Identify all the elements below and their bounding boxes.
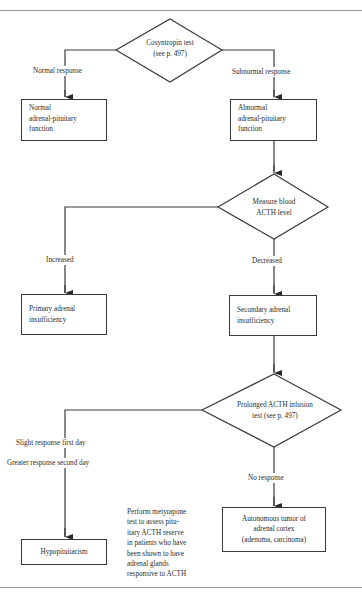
- note-line: adrenal glands: [127, 559, 217, 569]
- metyrapone-note: Perform metyrapone test to assess pitu- …: [127, 507, 217, 580]
- node-abnormal-adrenal-pituitary-function: Abnormal adrenal-pituitary function: [230, 99, 317, 141]
- note-line: test to assess pitu-: [127, 517, 217, 527]
- note-line: Perform metyrapone: [127, 507, 217, 517]
- node-primary-adrenal-insufficiency: Primary adrenal insufficiency: [21, 294, 107, 335]
- edge-label-increased: Increased: [45, 255, 75, 265]
- edge-label-normal-response: Normal response: [32, 66, 83, 76]
- node-line: (adenoma, carcinoma): [242, 535, 306, 546]
- node-line: Normal: [29, 103, 99, 114]
- node-line: insufficiency: [237, 316, 309, 327]
- node-line: function: [238, 124, 309, 135]
- infusion-test-text: Prolonged ACTH infusion test (see p. 497…: [216, 400, 334, 421]
- node-line: Measure blood: [232, 197, 316, 208]
- node-line: adrenal cortex: [254, 524, 295, 535]
- node-line: Prolonged ACTH infusion: [216, 400, 334, 411]
- note-line: in patients who have: [127, 538, 217, 548]
- cosyntropin-test-text: Cosyntropin test (see p. 497): [126, 38, 214, 59]
- node-line: (see p. 497): [126, 49, 214, 60]
- node-line: ACTH level: [232, 208, 316, 219]
- edge-label-decreased: Decreased: [251, 256, 283, 266]
- node-autonomous-tumor: Autonomous tumor of adrenal cortex (aden…: [222, 507, 326, 552]
- flowchart-page: Cosyntropin test (see p. 497) Normal res…: [0, 0, 362, 598]
- node-line: Secondary adrenal: [237, 305, 309, 316]
- edge-label-greater-response: Greater response second day: [6, 458, 90, 468]
- node-normal-adrenal-pituitary-function: Normal adrenal-pituitary function: [21, 99, 107, 141]
- node-line: Cosyntropin test: [126, 38, 214, 49]
- node-line: Abnormal: [238, 103, 309, 114]
- node-line: function: [29, 124, 99, 135]
- measure-acth-text: Measure blood ACTH level: [232, 197, 316, 218]
- note-line: responsive to ACTH: [127, 569, 217, 579]
- node-line: Primary adrenal: [29, 304, 99, 315]
- node-line: insufficiency: [29, 315, 99, 326]
- node-secondary-adrenal-insufficiency: Secondary adrenal insufficiency: [229, 295, 317, 336]
- node-line: adrenal-pituitary: [29, 114, 99, 125]
- note-line: itary ACTH reserve: [127, 528, 217, 538]
- node-hypopituitarism: Hypopituitarism: [21, 539, 107, 565]
- node-line: Hypopituitarism: [40, 547, 87, 558]
- node-line: adrenal-pituitary: [238, 114, 309, 125]
- note-line: been shown to have: [127, 549, 217, 559]
- node-line: test (see p. 497): [216, 411, 334, 422]
- node-line: Autonomous tumor of: [242, 514, 306, 525]
- edge-label-no-response: No response: [247, 473, 285, 483]
- edge-label-slight-response: Slight response first day: [15, 438, 87, 448]
- edge-label-subnormal-response: Subnormal response: [231, 67, 292, 77]
